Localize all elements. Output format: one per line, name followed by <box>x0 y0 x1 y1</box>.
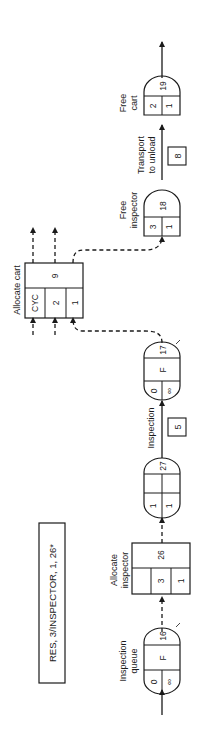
transport-label2: to unload <box>147 136 157 173</box>
allocate-inspector-queue: 1 <box>176 578 186 583</box>
transport-label: Transport <box>136 135 146 174</box>
free-cart-label: Free <box>118 94 128 113</box>
statement-text: RES, 3/INSPECTOR, 1, 26* <box>47 544 58 662</box>
free-cart-label2: cart <box>129 95 139 111</box>
inspection-activity-label: Inspection <box>146 407 156 448</box>
free-cart-node: Free cart 2 1 19 <box>118 76 180 115</box>
wait-ranking-value: F <box>158 367 168 372</box>
allocate-cart-rule: CYC <box>30 294 40 312</box>
inspection-wait-node: 0 ∞ F 17 <box>144 340 180 400</box>
allocate-inspector-label2: inspector <box>120 552 130 589</box>
cart-to-free-inspector-arrow <box>73 237 162 263</box>
wait-capacity-value: ∞ <box>164 388 174 394</box>
allocate-inspector-resource: 3 <box>156 578 166 583</box>
queue-init-value: 0 <box>149 679 159 684</box>
free-cart-number: 19 <box>158 81 168 91</box>
queue-capacity-value: ∞ <box>164 679 174 685</box>
queue-ranking-value: F <box>158 655 168 660</box>
allocate-inspector-label: Allocate <box>109 554 119 586</box>
free-inspector-label2: inspector <box>129 192 139 229</box>
node27-number: 27 <box>158 461 168 471</box>
node-27: 1 1 27 <box>144 458 180 518</box>
allocate-cart-q1: 1 <box>70 300 80 305</box>
inspection-queue-label: Inspection <box>118 640 128 681</box>
allocate-cart-node: Allocate cart CYC 2 1 9 <box>12 263 83 318</box>
free-inspector-resource: 3 <box>148 224 158 229</box>
allocate-inspector-number: 26 <box>156 550 166 560</box>
node27-release-sub: 1 <box>164 503 174 508</box>
free-cart-units: 1 <box>164 103 174 108</box>
allocate-cart-q2: 2 <box>51 300 61 305</box>
node27-release-first: 1 <box>148 503 158 508</box>
allocate-cart-label: Allocate cart <box>12 265 22 315</box>
transport-duration: 8 <box>173 153 183 158</box>
network-diagram: RES, 3/INSPECTOR, 1, 26* Inspection queu… <box>0 0 204 752</box>
statement-box: RES, 3/INSPECTOR, 1, 26* <box>39 523 65 683</box>
free-inspector-node: Free inspector 3 1 18 <box>118 190 180 236</box>
allocate-inspector-node: Allocate inspector 3 1 26 <box>109 543 190 594</box>
inspection-queue-label2: queue <box>129 648 139 673</box>
wait-node-number: 17 <box>158 345 168 355</box>
wait-to-cart-arrow <box>73 318 162 343</box>
transport-duration-box: 8 <box>168 147 186 165</box>
free-cart-resource: 2 <box>148 103 158 108</box>
queue-node-number: 16 <box>158 631 168 641</box>
free-inspector-label: Free <box>118 201 128 220</box>
inspection-duration: 5 <box>173 424 183 429</box>
inspection-duration-box: 5 <box>168 418 186 436</box>
inspection-queue-node: Inspection queue 0 ∞ F 16 <box>118 623 180 694</box>
allocate-cart-number: 9 <box>50 273 60 278</box>
free-inspector-number: 18 <box>158 201 168 211</box>
free-inspector-units: 1 <box>164 224 174 229</box>
wait-init-value: 0 <box>149 388 159 393</box>
